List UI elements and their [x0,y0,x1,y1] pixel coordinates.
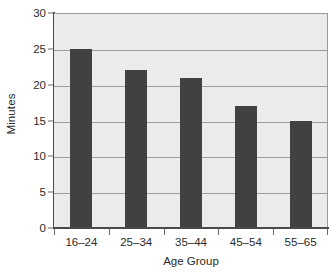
x-axis-tick-mark [54,229,55,235]
x-axis-tick-labels: 16–2425–3435–4445–5455–65 [54,236,328,252]
y-axis-tick-labels: 051015202530 [20,13,46,228]
y-axis-tick-label: 15 [33,115,46,127]
bar[interactable] [180,78,202,229]
x-axis-tick-mark [327,229,328,235]
x-axis-tick-marks [54,229,328,235]
bar[interactable] [125,70,147,228]
bar[interactable] [290,121,312,229]
y-axis-tick-label: 25 [33,43,46,55]
x-axis-tick-label: 25–34 [120,236,152,248]
x-axis-tick-mark [164,229,165,235]
x-axis-tick-mark [218,229,219,235]
y-axis-tick-label: 5 [40,186,46,198]
y-axis-tick-label: 0 [40,222,46,234]
y-axis-title: Minutes [0,0,22,228]
y-axis-title-label: Minutes [5,94,17,135]
x-axis-tick-label: 16–24 [65,236,97,248]
y-axis-tick-label: 20 [33,79,46,91]
bar-chart-figure: Minutes 051015202530 16–2425–3435–4445–5… [0,0,336,276]
x-axis-tick-mark [109,229,110,235]
plot-area [54,13,328,228]
bar[interactable] [235,106,257,228]
x-axis-tick-mark [273,229,274,235]
x-axis-title: Age Group [54,255,328,267]
bar-series [54,14,327,228]
y-axis-tick-label: 30 [33,7,46,19]
y-axis-tick-label: 10 [33,150,46,162]
x-axis-tick-label: 55–65 [285,236,317,248]
x-axis-tick-label: 35–44 [175,236,207,248]
x-axis-tick-label: 45–54 [230,236,262,248]
bar[interactable] [70,49,92,228]
